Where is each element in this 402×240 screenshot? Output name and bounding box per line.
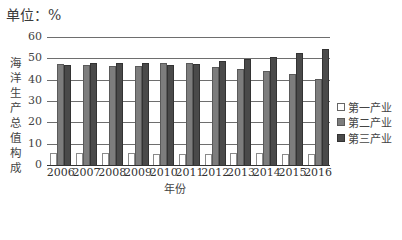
bar-2011-series-1	[179, 154, 186, 165]
gridline	[47, 37, 330, 38]
x-axis-label: 年份	[160, 180, 190, 196]
bar-2012-series-3	[219, 61, 226, 165]
bar-2015-series-2	[289, 74, 296, 165]
bar-2006-series-3	[64, 65, 71, 165]
y-tick-label: 0	[22, 158, 42, 171]
y-tick-label: 20	[22, 115, 42, 128]
bar-2015-series-3	[296, 53, 303, 165]
bar-2012-series-1	[205, 154, 212, 165]
legend-label: 第一产业	[348, 99, 392, 115]
bar-2008-series-3	[116, 63, 123, 165]
bar-2009-series-1	[128, 153, 135, 165]
y-tick-label: 50	[22, 51, 42, 64]
bar-2014-series-3	[270, 57, 277, 165]
bar-2008-series-2	[109, 66, 116, 165]
bar-2013-series-3	[244, 59, 251, 165]
legend-item: 第三产业	[337, 130, 392, 146]
bar-2006-series-2	[57, 64, 64, 165]
bar-2008-series-1	[102, 153, 109, 165]
legend-swatch-icon	[337, 118, 345, 126]
legend-item: 第一产业	[337, 99, 392, 115]
bar-2016-series-1	[308, 154, 315, 165]
bar-2014-series-1	[256, 153, 263, 165]
y-tick-label: 40	[22, 73, 42, 86]
bar-2015-series-1	[282, 154, 289, 165]
bar-2012-series-2	[212, 67, 219, 165]
legend-label: 第三产业	[348, 130, 392, 146]
bar-2010-series-2	[160, 63, 167, 165]
bar-2007-series-2	[83, 65, 90, 165]
gridline	[47, 58, 330, 59]
bar-2010-series-3	[167, 65, 174, 165]
y-tick-label: 60	[22, 30, 42, 43]
bar-2013-series-1	[230, 153, 237, 165]
y-tick-label: 10	[22, 137, 42, 150]
x-tick-label: 2016	[303, 166, 333, 179]
bar-2009-series-3	[142, 63, 149, 165]
legend-label: 第二产业	[348, 114, 392, 130]
y-tick-label: 30	[22, 94, 42, 107]
bar-2009-series-2	[135, 66, 142, 165]
bar-2010-series-1	[153, 154, 160, 165]
legend-item: 第二产业	[337, 115, 392, 131]
legend-swatch-icon	[337, 103, 345, 111]
bar-2014-series-2	[263, 71, 270, 165]
bar-2016-series-3	[322, 49, 329, 165]
bar-2016-series-2	[315, 79, 322, 165]
bar-2007-series-3	[90, 63, 97, 165]
bar-2007-series-1	[76, 153, 83, 165]
legend: 第一产业第二产业第三产业	[337, 99, 392, 146]
bar-2011-series-2	[186, 63, 193, 165]
bar-2006-series-1	[50, 153, 57, 165]
bar-2013-series-2	[237, 69, 244, 165]
legend-swatch-icon	[337, 134, 345, 142]
bar-2011-series-3	[193, 64, 200, 165]
